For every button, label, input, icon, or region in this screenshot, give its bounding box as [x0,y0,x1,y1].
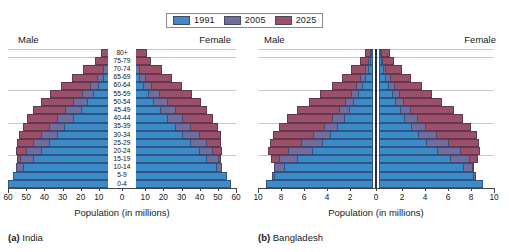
pyramid-row-male [8,65,117,73]
pyramid-row-male [258,98,373,106]
bar-1991-female [379,180,483,188]
bar-1991-male [337,123,373,131]
bar-1991-male [371,49,373,57]
bar-1991-male [297,155,373,163]
bar-1991-male [322,139,373,147]
bar-1991-male [368,65,373,73]
sex-labels-india: Male Female [8,34,253,49]
x-axis-tick [145,188,146,191]
x-axis-tick [99,188,100,191]
pyramid-row-male [258,139,373,147]
bar-1991-female [379,57,382,65]
x-axis-tick-label: 10 [253,192,262,202]
bar-1991-female [379,65,384,73]
pyramid-row-male [258,82,373,90]
pyramid-row-female [379,131,494,139]
pyramid-row-male [8,180,117,188]
pyramid-row-female [127,106,236,114]
pyramid-row-male [258,57,373,65]
x-axis-tick-label: 30 [177,192,186,202]
pyramid-row-male [8,131,117,139]
pyramid-row-male [258,65,373,73]
pyramid-row-female [379,57,494,65]
male-label: Male [18,34,39,45]
age-group-label: 10-14 [108,163,136,171]
age-group-label: 60-64 [108,82,136,90]
legend-swatch-2005 [224,16,241,25]
bar-1991-male [353,98,373,106]
x-axis-tick [26,188,27,191]
x-axis-tick-label: 4 [423,192,428,202]
pyramid-row-male [8,172,117,180]
bar-1991-male [274,172,373,180]
pyramid-row-female [127,155,236,163]
x-axis-tick [327,188,328,191]
bar-1991-female [127,172,227,180]
age-group-label: 45-49 [108,106,136,114]
pyramid-row-female [379,98,494,106]
pyramid-row-female [127,123,236,131]
sex-labels-bangladesh: Male Female [258,34,506,49]
pyramid-row-male [8,57,117,65]
pyramid-row-male [258,90,373,98]
age-group-label: 20-24 [108,147,136,155]
male-label: Male [264,34,285,45]
x-axis-tick [402,188,403,191]
pyramid-row-female [379,106,494,114]
bar-1991-female [379,147,438,155]
age-group-label: 30-34 [108,131,136,139]
female-half-india [127,49,236,188]
x-axis-bangladesh: Population (in millions) 1086420246810 [258,188,494,202]
bar-1991-male [330,131,373,139]
x-axis-tick [44,188,45,191]
pyramid-row-male [8,90,117,98]
x-axis-tick-label: 60 [231,192,240,202]
pyramid-row-male [8,106,117,114]
legend-entry-1991: 1991 [173,16,215,25]
pyramid-row-female [379,172,494,180]
pyramid-row-female [127,82,236,90]
female-half-bangladesh [379,49,494,188]
caption-prefix: (a) [8,232,20,243]
pyramid-row-male [258,74,373,82]
bar-1991-female [379,114,405,122]
age-group-label: 5-9 [108,172,136,180]
pyramid-row-male [8,74,117,82]
pyramid-row-male [258,163,373,171]
x-axis-tick-label: 60 [3,192,12,202]
pyramid-row-male [258,106,373,114]
bar-1991-male [49,139,117,147]
pyramid-row-male [258,180,373,188]
x-axis-tick-label: 30 [58,192,67,202]
pyramid-row-female [379,114,494,122]
bar-1991-male [358,90,373,98]
bar-1991-male [13,172,117,180]
bar-1991-female [379,163,464,171]
legend-label-1991: 1991 [194,16,215,25]
pyramid-row-male [8,82,117,90]
caption-prefix: (b) [258,232,270,243]
x-axis-tick-label: 10 [489,192,498,202]
legend-swatch-2025 [275,16,292,25]
x-axis-india: Population (in millions) 605040302010010… [8,188,236,202]
x-axis-tick-label: 10 [94,192,103,202]
bar-1991-male [365,74,373,82]
pyramid-row-female [127,57,236,65]
pyramid-row-female [379,147,494,155]
age-group-label: 25-29 [108,139,136,147]
legend-swatch-1991 [173,16,190,25]
bar-1991-female [379,172,474,180]
caption-text: India [22,232,43,243]
x-axis-tick [350,188,351,191]
bar-1991-female [379,90,393,98]
pyramid-row-male [8,155,117,163]
x-axis-title: Population (in millions) [258,207,494,218]
legend-label-2025: 2025 [296,16,317,25]
age-group-label: 35-39 [108,123,136,131]
age-group-label: 15-19 [108,155,136,163]
center-axis-bangladesh [375,49,377,188]
x-axis-tick-label: 0 [120,192,125,202]
x-axis-tick [122,188,123,191]
pyramid-row-male [8,98,117,106]
pyramid-row-female [127,114,236,122]
